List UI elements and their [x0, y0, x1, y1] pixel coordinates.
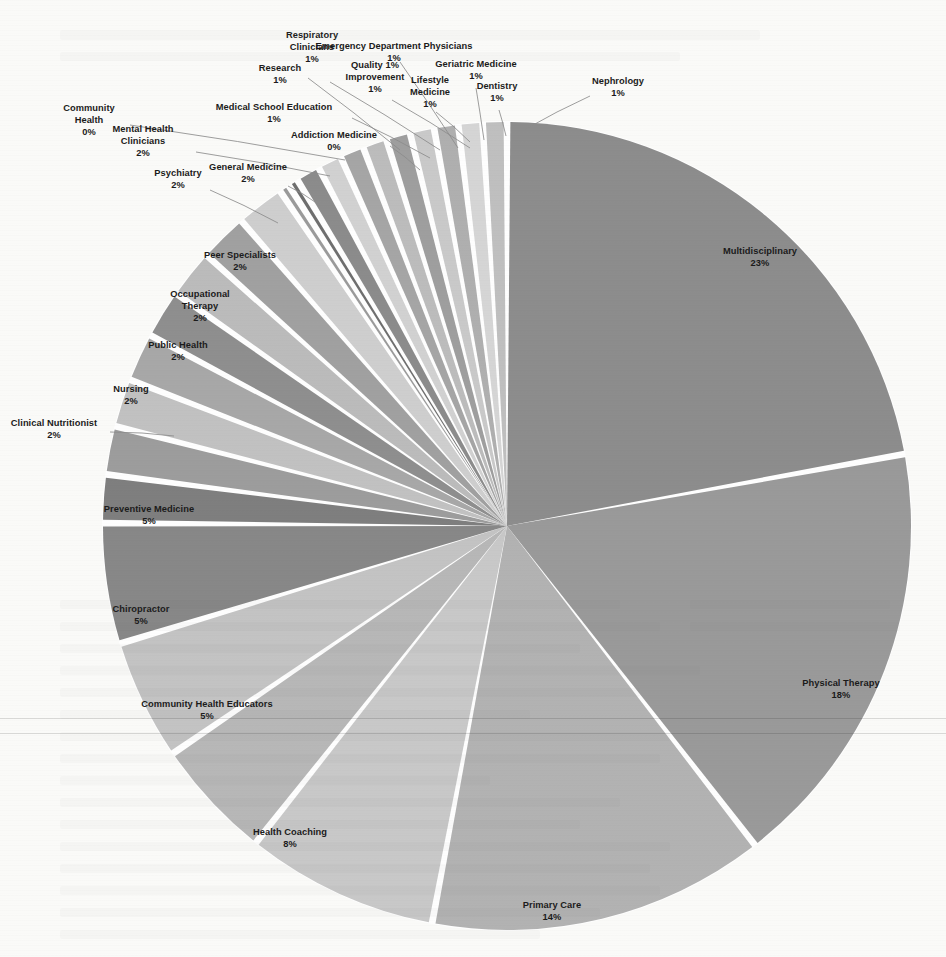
pie-chart: Multidisciplinary23%Physical Therapy18%P…	[0, 0, 946, 957]
slice-label-research: Research1%	[259, 64, 302, 86]
slice-label-general-medicine: General Medicine2%	[209, 163, 287, 185]
slice-label-medical-school-education: Medical School Education1%	[216, 103, 333, 125]
slice-label-lifestyle-medicine: LifestyleMedicine1%	[410, 76, 450, 109]
slice-label-mental-health-clinicians: Mental HealthClinicians2%	[112, 125, 173, 158]
slice-label-clinical-nutritionist: Clinical Nutritionist2%	[11, 419, 97, 441]
slice-label-psychiatry: Psychiatry2%	[154, 169, 202, 191]
slice-label-nephrology: Nephrology1%	[592, 77, 645, 99]
pie-chart-svg: Multidisciplinary23%Physical Therapy18%P…	[0, 0, 946, 957]
slice-label-community-health: CommunityHealth0%	[63, 104, 115, 137]
slice-label-quality-improvement: Quality 1%Improvement1%	[346, 61, 405, 94]
slice-label-dentistry: Dentistry1%	[477, 82, 519, 104]
